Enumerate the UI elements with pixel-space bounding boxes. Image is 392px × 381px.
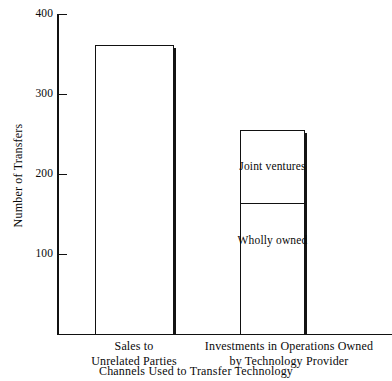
- y-tick-label-100: 100: [19, 248, 53, 260]
- y-tick-mark-300: [58, 94, 67, 95]
- y-tick-mark-100: [58, 254, 67, 255]
- segment-divider-line: [240, 203, 305, 204]
- y-tick-label-300: 300: [19, 88, 53, 100]
- y-tick-label-400: 400: [19, 8, 53, 20]
- category-1-line-1: Sales to: [74, 339, 194, 354]
- y-tick-label-400-wrap: 400: [0, 8, 53, 20]
- category-2-line-1: Investments in Operations Owned: [186, 339, 392, 354]
- y-tick-label-100-wrap: 100: [0, 248, 53, 260]
- segment-label-joint-ventures: Joint ventures: [206, 160, 339, 172]
- y-tick-mark-400: [58, 14, 67, 15]
- x-axis-title: Channels Used to Transfer Technology: [0, 364, 392, 379]
- y-axis-title: Number of Transfers: [11, 106, 26, 246]
- bar-1-shadow: [173, 48, 176, 334]
- y-tick-label-300-wrap: 300: [0, 88, 53, 100]
- y-tick-mark-200: [58, 174, 67, 175]
- bar-chart: 400 300 200 100 Number of Transfers Join…: [0, 0, 392, 381]
- y-tick-label-200-wrap: 200: [0, 168, 53, 180]
- bar-sales-to-unrelated-parties: [95, 45, 174, 334]
- segment-label-wholly-owned: Wholly owned: [206, 234, 339, 246]
